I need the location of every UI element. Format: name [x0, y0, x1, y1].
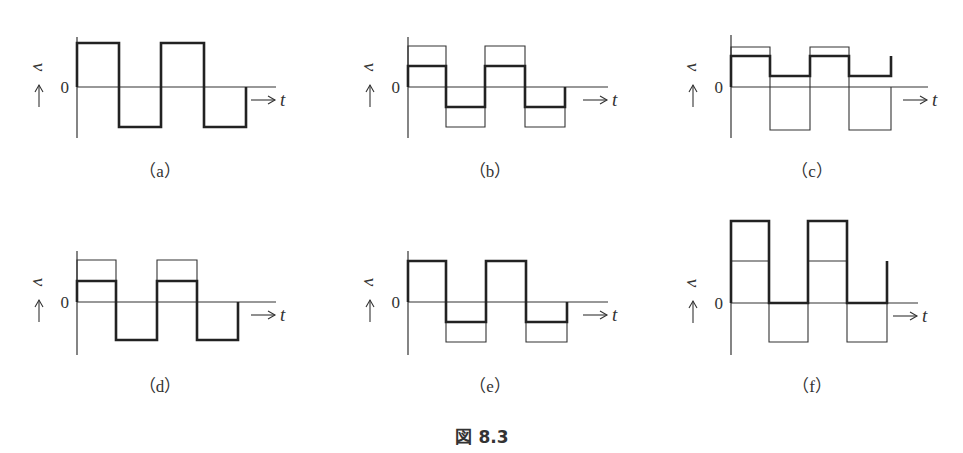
t-label: t: [280, 89, 286, 110]
panel-label-b: （b）: [469, 162, 512, 181]
panel-label-e: （e）: [469, 377, 511, 396]
thick-waveform: [408, 261, 567, 322]
panel-a: 0vt（a）: [29, 37, 286, 181]
thick-waveform: [731, 56, 891, 87]
v-label: v: [360, 278, 381, 287]
v-label: v: [683, 63, 704, 72]
t-label: t: [612, 304, 618, 325]
panel-label-f: （f）: [792, 377, 832, 396]
panel-b: 0vt（b）: [360, 37, 618, 181]
zero-label: 0: [392, 78, 401, 97]
zero-label: 0: [61, 293, 70, 312]
v-label: v: [360, 63, 381, 72]
panel-e: 0vt（e）: [360, 251, 618, 396]
panel-c: 0vt（c）: [683, 35, 938, 181]
waveform-figure: 0vt（a）0vt（b）0vt（c）0vt（d）0vt（e）0vt（f） 図 8…: [0, 0, 963, 453]
t-label: t: [612, 89, 618, 110]
panel-d: 0vt（d）: [29, 251, 286, 396]
v-label: v: [29, 278, 50, 287]
panels-group: 0vt（a）0vt（b）0vt（c）0vt（d）0vt（e）0vt（f）: [29, 35, 938, 396]
zero-label: 0: [392, 293, 401, 312]
t-label: t: [280, 304, 286, 325]
panel-label-c: （c）: [791, 162, 833, 181]
zero-label: 0: [61, 78, 70, 97]
panel-label-a: （a）: [139, 162, 181, 181]
panel-label-d: （d）: [139, 377, 182, 396]
thick-waveform: [731, 221, 887, 303]
t-label: t: [932, 89, 938, 110]
v-label: v: [29, 63, 50, 72]
thick-waveform: [77, 281, 238, 340]
zero-label: 0: [715, 294, 724, 313]
zero-label: 0: [715, 78, 724, 97]
thick-waveform: [77, 43, 246, 127]
t-label: t: [922, 305, 928, 326]
figure-caption: 図 8.3: [455, 427, 508, 447]
v-label: v: [683, 279, 704, 288]
panel-f: 0vt（f）: [683, 221, 928, 396]
